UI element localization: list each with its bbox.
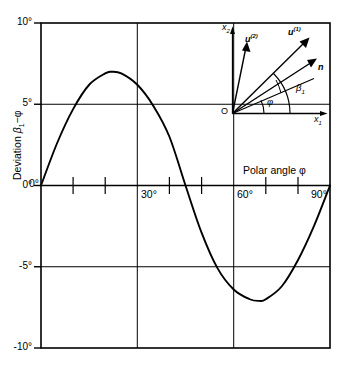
inset-vector-u1-sup: (1) — [294, 26, 301, 32]
y-tick-label-minus5: -5° — [5, 261, 32, 271]
y-axis-label: Deviation β1−φ — [12, 111, 26, 180]
inset-vector-n-arrowhead — [307, 59, 317, 68]
y-axis-label-text: Deviation — [11, 136, 23, 180]
inset-axis-x2-arrowhead — [230, 27, 235, 35]
inset-arc-beta1 — [274, 74, 291, 114]
y-axis-label-beta-sub: 1 — [18, 124, 25, 128]
inset-vector-u1-label: u(1) — [288, 27, 301, 37]
x-tick-label-30: 30° — [141, 189, 157, 200]
figure-container: 10° 5° 0° -5° -10° Deviation β1−φ 0° 30°… — [0, 0, 350, 375]
y-tick-label-minus10: -10° — [1, 342, 32, 352]
inset-vector-u2-label: u(2) — [245, 34, 258, 44]
x-axis-label: Polar angle φ — [243, 165, 306, 176]
y-axis-label-rest: −φ — [11, 111, 23, 124]
inset-vector-u2-sup: (2) — [251, 33, 258, 39]
x-tick-label-90: 90° — [311, 189, 327, 200]
inset-vector-u2-shaft — [233, 47, 247, 114]
inset-angle-beta1-label: β1 — [296, 83, 305, 95]
inset-arc-phi — [261, 100, 264, 113]
y-tick-label-5: 5° — [8, 98, 32, 108]
x-tick-label-0: 0° — [29, 178, 39, 189]
x-tick-label-60: 60° — [237, 189, 253, 200]
inset-angle-beta-sub: 1 — [301, 88, 304, 95]
y-axis-label-beta: β — [11, 127, 23, 133]
inset-axis-x1-label: x1 — [314, 115, 322, 127]
inset-axis-x2-sub: 2 — [227, 28, 230, 34]
chart-canvas — [0, 0, 350, 375]
inset-axis-x1-sub: 1 — [319, 120, 322, 126]
y-tick-label-10: 10° — [8, 17, 32, 27]
inset-origin-label: O — [221, 107, 228, 116]
inset-vector-n-label: n — [318, 63, 324, 72]
inset-angle-phi-label: φ — [267, 97, 273, 107]
inset-axis-x2-label: x2 — [222, 23, 230, 35]
